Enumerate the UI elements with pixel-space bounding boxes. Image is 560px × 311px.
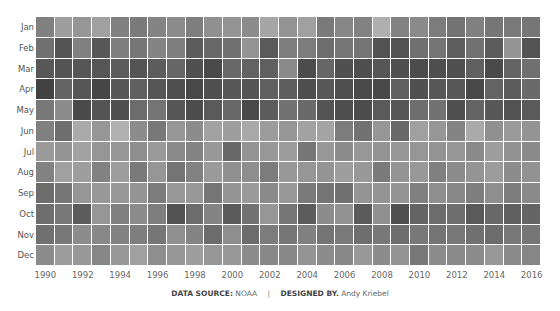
heatmap-cell[interactable] bbox=[522, 142, 541, 163]
heatmap-cell[interactable] bbox=[447, 142, 466, 163]
heatmap-cell[interactable] bbox=[55, 59, 74, 80]
heatmap-cell[interactable] bbox=[279, 79, 298, 100]
heatmap-cell[interactable] bbox=[466, 121, 485, 142]
heatmap-cell[interactable] bbox=[466, 79, 485, 100]
heatmap-cell[interactable] bbox=[504, 245, 523, 266]
heatmap-cell[interactable] bbox=[92, 38, 111, 59]
heatmap-cell[interactable] bbox=[429, 204, 448, 225]
heatmap-cell[interactable] bbox=[111, 59, 130, 80]
heatmap-cell[interactable] bbox=[391, 142, 410, 163]
heatmap-cell[interactable] bbox=[223, 225, 242, 246]
heatmap-cell[interactable] bbox=[55, 245, 74, 266]
heatmap-cell[interactable] bbox=[279, 17, 298, 38]
heatmap-cell[interactable] bbox=[242, 17, 261, 38]
heatmap-cell[interactable] bbox=[167, 204, 186, 225]
heatmap-cell[interactable] bbox=[504, 225, 523, 246]
heatmap-cell[interactable] bbox=[373, 59, 392, 80]
heatmap-cell[interactable] bbox=[504, 142, 523, 163]
heatmap-cell[interactable] bbox=[279, 59, 298, 80]
heatmap-cell[interactable] bbox=[317, 121, 336, 142]
heatmap-cell[interactable] bbox=[204, 59, 223, 80]
heatmap-cell[interactable] bbox=[167, 100, 186, 121]
heatmap-cell[interactable] bbox=[36, 183, 55, 204]
heatmap-cell[interactable] bbox=[391, 204, 410, 225]
heatmap-cell[interactable] bbox=[111, 121, 130, 142]
heatmap-cell[interactable] bbox=[504, 183, 523, 204]
heatmap-cell[interactable] bbox=[354, 79, 373, 100]
heatmap-cell[interactable] bbox=[298, 204, 317, 225]
heatmap-cell[interactable] bbox=[522, 183, 541, 204]
heatmap-cell[interactable] bbox=[354, 17, 373, 38]
heatmap-cell[interactable] bbox=[111, 79, 130, 100]
heatmap-cell[interactable] bbox=[204, 142, 223, 163]
heatmap-cell[interactable] bbox=[335, 17, 354, 38]
heatmap-cell[interactable] bbox=[373, 121, 392, 142]
heatmap-cell[interactable] bbox=[260, 79, 279, 100]
heatmap-cell[interactable] bbox=[92, 121, 111, 142]
heatmap-cell[interactable] bbox=[36, 17, 55, 38]
heatmap-cell[interactable] bbox=[335, 38, 354, 59]
heatmap-cell[interactable] bbox=[298, 183, 317, 204]
heatmap-cell[interactable] bbox=[485, 59, 504, 80]
heatmap-cell[interactable] bbox=[335, 100, 354, 121]
heatmap-cell[interactable] bbox=[130, 142, 149, 163]
heatmap-cell[interactable] bbox=[504, 38, 523, 59]
heatmap-cell[interactable] bbox=[335, 142, 354, 163]
heatmap-cell[interactable] bbox=[204, 183, 223, 204]
heatmap-cell[interactable] bbox=[298, 142, 317, 163]
heatmap-cell[interactable] bbox=[373, 183, 392, 204]
heatmap-cell[interactable] bbox=[55, 204, 74, 225]
heatmap-cell[interactable] bbox=[429, 142, 448, 163]
heatmap-cell[interactable] bbox=[317, 59, 336, 80]
heatmap-cell[interactable] bbox=[391, 59, 410, 80]
heatmap-cell[interactable] bbox=[186, 38, 205, 59]
heatmap-cell[interactable] bbox=[223, 245, 242, 266]
heatmap-cell[interactable] bbox=[391, 183, 410, 204]
heatmap-cell[interactable] bbox=[354, 100, 373, 121]
heatmap-cell[interactable] bbox=[522, 245, 541, 266]
heatmap-cell[interactable] bbox=[204, 162, 223, 183]
heatmap-cell[interactable] bbox=[242, 100, 261, 121]
heatmap-cell[interactable] bbox=[447, 38, 466, 59]
heatmap-cell[interactable] bbox=[111, 225, 130, 246]
heatmap-cell[interactable] bbox=[167, 38, 186, 59]
heatmap-cell[interactable] bbox=[466, 245, 485, 266]
heatmap-cell[interactable] bbox=[279, 121, 298, 142]
heatmap-cell[interactable] bbox=[92, 100, 111, 121]
heatmap-cell[interactable] bbox=[92, 59, 111, 80]
heatmap-cell[interactable] bbox=[73, 142, 92, 163]
heatmap-cell[interactable] bbox=[111, 142, 130, 163]
heatmap-cell[interactable] bbox=[36, 162, 55, 183]
heatmap-cell[interactable] bbox=[373, 225, 392, 246]
heatmap-cell[interactable] bbox=[410, 17, 429, 38]
heatmap-cell[interactable] bbox=[36, 225, 55, 246]
heatmap-cell[interactable] bbox=[466, 38, 485, 59]
heatmap-cell[interactable] bbox=[186, 245, 205, 266]
heatmap-cell[interactable] bbox=[298, 79, 317, 100]
heatmap-cell[interactable] bbox=[148, 183, 167, 204]
heatmap-cell[interactable] bbox=[130, 79, 149, 100]
heatmap-cell[interactable] bbox=[335, 225, 354, 246]
heatmap-cell[interactable] bbox=[447, 17, 466, 38]
heatmap-cell[interactable] bbox=[354, 183, 373, 204]
heatmap-cell[interactable] bbox=[447, 183, 466, 204]
heatmap-cell[interactable] bbox=[466, 225, 485, 246]
heatmap-cell[interactable] bbox=[148, 38, 167, 59]
heatmap-cell[interactable] bbox=[317, 38, 336, 59]
heatmap-cell[interactable] bbox=[186, 17, 205, 38]
heatmap-cell[interactable] bbox=[260, 100, 279, 121]
heatmap-cell[interactable] bbox=[130, 59, 149, 80]
heatmap-cell[interactable] bbox=[260, 59, 279, 80]
heatmap-cell[interactable] bbox=[92, 183, 111, 204]
heatmap-cell[interactable] bbox=[186, 142, 205, 163]
heatmap-cell[interactable] bbox=[354, 204, 373, 225]
heatmap-cell[interactable] bbox=[148, 79, 167, 100]
heatmap-cell[interactable] bbox=[130, 38, 149, 59]
heatmap-cell[interactable] bbox=[92, 142, 111, 163]
heatmap-cell[interactable] bbox=[354, 59, 373, 80]
heatmap-cell[interactable] bbox=[242, 79, 261, 100]
heatmap-cell[interactable] bbox=[279, 225, 298, 246]
heatmap-cell[interactable] bbox=[410, 100, 429, 121]
heatmap-cell[interactable] bbox=[223, 38, 242, 59]
heatmap-cell[interactable] bbox=[223, 204, 242, 225]
